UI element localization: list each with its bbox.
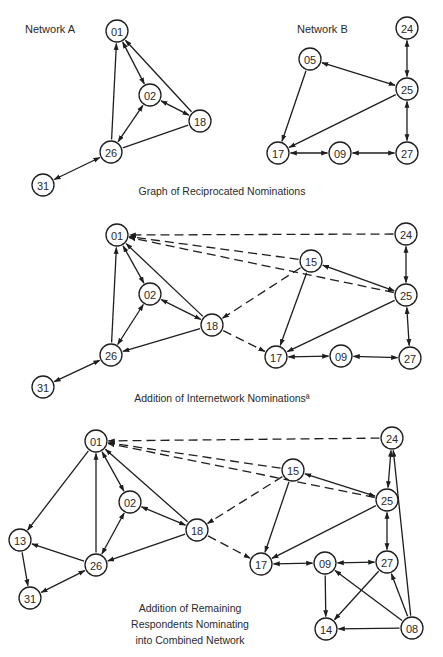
node-24: 24 (381, 427, 403, 449)
nodes-layer: 0102182631240525170927010218263124152517… (9, 17, 423, 640)
edge-25-to-01 (108, 444, 374, 498)
node-label: 14 (320, 624, 332, 636)
edge-25-to-17 (272, 506, 376, 559)
node-label: 26 (90, 560, 102, 572)
node-31: 31 (19, 587, 41, 609)
edge-25-to-27 (407, 308, 409, 346)
node-15: 15 (300, 250, 322, 272)
node-24: 24 (395, 223, 417, 245)
node-label: 31 (37, 180, 49, 192)
edge-27-to-14 (334, 571, 378, 620)
node-17: 17 (250, 553, 272, 575)
node-02: 02 (139, 84, 161, 106)
edge-08-to-09 (335, 571, 402, 621)
edge-24-to-25 (388, 451, 391, 488)
edge-31-to-26 (41, 571, 85, 593)
node-label: 15 (287, 465, 299, 477)
edge-17-to-09 (274, 563, 313, 564)
edge-05-to-17 (282, 71, 306, 141)
node-26: 26 (100, 141, 122, 163)
node-17: 17 (265, 346, 287, 368)
node-24: 24 (396, 17, 418, 39)
node-label: 01 (111, 230, 123, 242)
edge-15-to-01 (129, 237, 298, 260)
node-08: 08 (401, 617, 423, 639)
edge-26-to-13 (32, 544, 84, 561)
node-18: 18 (201, 314, 223, 336)
node-05: 05 (299, 48, 321, 70)
edge-15-to-25 (323, 265, 394, 291)
edge-09-to-27 (354, 356, 398, 357)
edge-18-to-01 (126, 244, 203, 317)
edge-02-to-18 (161, 101, 189, 115)
node-label: 26 (105, 147, 117, 159)
node-label: 24 (386, 433, 398, 445)
node-02: 02 (139, 283, 161, 305)
edge-18-to-26 (108, 534, 185, 561)
edge-24-to-01 (130, 234, 394, 235)
node-31: 31 (32, 376, 54, 398)
node-label: 26 (105, 350, 117, 362)
edge-15-to-18 (208, 477, 283, 524)
edge-15-to-17 (265, 482, 289, 552)
edge-08-to-24 (393, 450, 410, 615)
node-label: 05 (304, 54, 316, 66)
node-label: 01 (90, 436, 102, 448)
edge-02-to-26 (118, 105, 143, 141)
node-label: 24 (400, 229, 412, 241)
edge-26-to-01 (112, 44, 117, 140)
edge-05-to-25 (322, 63, 395, 86)
text-layer: Network ANetwork BGraph of Reciprocated … (25, 23, 348, 646)
node-17: 17 (267, 142, 289, 164)
node-label: 18 (191, 525, 203, 537)
panel-caption: Respondents Nominating (131, 618, 249, 630)
node-label: 17 (270, 352, 282, 364)
panel-caption: Addition of Internetwork Nominationsª (134, 392, 310, 404)
node-09: 09 (329, 142, 351, 164)
node-01: 01 (106, 20, 128, 42)
edge-31-to-26 (54, 158, 100, 180)
edge-08-to-14 (339, 628, 400, 629)
edge-08-to-27 (391, 574, 407, 617)
panel-reciprocated-nodes: 0102182631240525170927 (32, 17, 418, 196)
edge-18-to-26 (123, 329, 200, 352)
edge-24-to-01 (109, 438, 380, 441)
node-13: 13 (9, 529, 31, 551)
node-25: 25 (376, 489, 398, 511)
edge-26-to-01 (112, 248, 117, 343)
edge-09-to-14 (325, 576, 326, 617)
node-01: 01 (85, 430, 107, 452)
panel-caption: into Combined Network (135, 634, 245, 646)
node-label: 15 (305, 256, 317, 268)
edge-15-to-18 (223, 268, 301, 318)
node-02: 02 (119, 491, 141, 513)
edge-25-to-17 (287, 300, 394, 351)
node-label: 02 (124, 497, 136, 509)
edge-01-to-13 (28, 451, 89, 530)
node-label: 02 (144, 90, 156, 102)
edge-15-to-17 (280, 273, 306, 346)
node-25: 25 (395, 284, 417, 306)
node-15: 15 (282, 459, 304, 481)
node-27: 27 (376, 551, 398, 573)
node-18: 18 (189, 110, 211, 132)
node-label: 18 (206, 320, 218, 332)
edge-02-to-26 (102, 513, 124, 554)
edge-18-to-17 (223, 331, 265, 352)
edge-18-to-26 (123, 125, 188, 148)
node-label: 08 (406, 623, 418, 635)
node-01: 01 (106, 224, 128, 246)
node-26: 26 (85, 554, 107, 576)
sociogram-figure: 0102182631240525170927010218263124152517… (0, 0, 443, 657)
node-label: 25 (400, 290, 412, 302)
edge-09-to-27 (338, 562, 375, 563)
panel-caption: Addition of Remaining (139, 602, 242, 614)
node-label: 27 (381, 557, 393, 569)
node-label: 09 (319, 558, 331, 570)
node-label: 17 (255, 559, 267, 571)
edge-31-to-26 (54, 360, 99, 381)
node-27: 27 (399, 347, 421, 369)
edge-17-to-09 (289, 356, 329, 357)
node-31: 31 (32, 174, 54, 196)
node-25: 25 (396, 78, 418, 100)
